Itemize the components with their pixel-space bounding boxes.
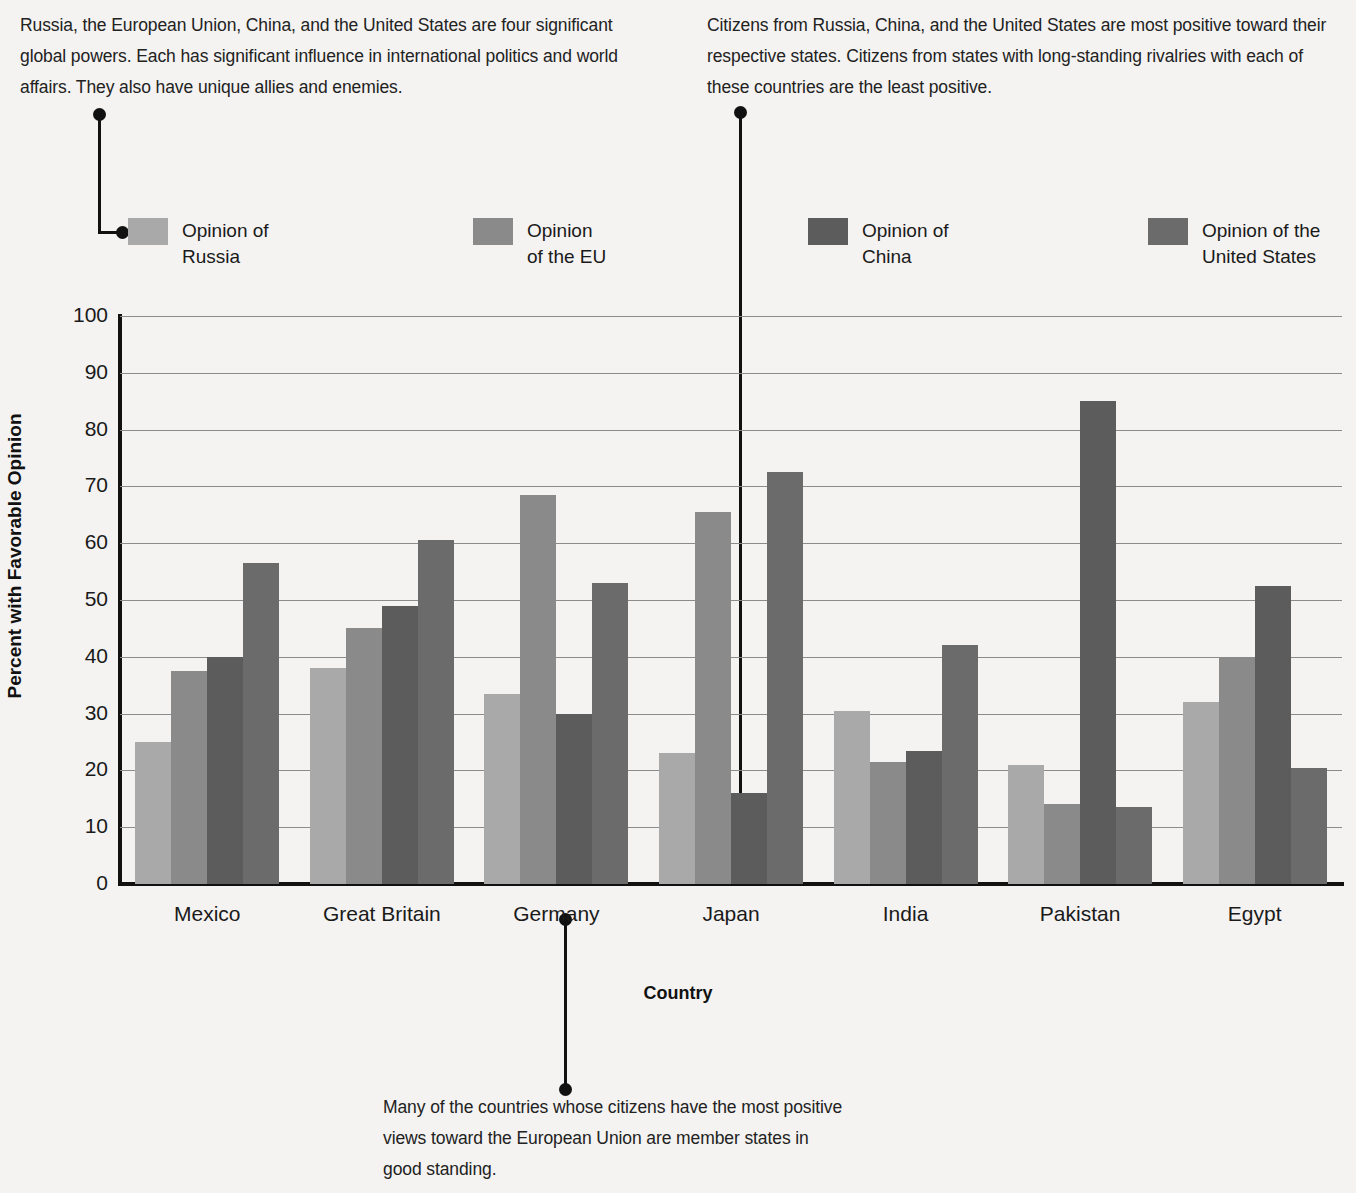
y-axis-tick-labels: 1009080706050403020100 — [60, 316, 108, 884]
legend-item-united-states[interactable]: Opinion of the United States — [1148, 218, 1320, 270]
y-axis-tick-label: 10 — [66, 814, 108, 838]
y-axis-tick-label: 100 — [66, 303, 108, 327]
leader-dot-end — [559, 1083, 572, 1096]
bar — [1116, 807, 1152, 884]
bar — [243, 563, 279, 884]
legend-item-china[interactable]: Opinion of China — [808, 218, 949, 270]
plot-area: MexicoGreat BritainGermanyJapanIndiaPaki… — [120, 316, 1342, 884]
x-axis-category-label: Mexico — [135, 902, 279, 926]
y-axis-tick-label: 90 — [66, 360, 108, 384]
bar — [767, 472, 803, 884]
y-axis-tick-label: 70 — [66, 473, 108, 497]
y-axis-tick-label: 30 — [66, 701, 108, 725]
bar — [1291, 768, 1327, 884]
x-axis-title: Country — [0, 983, 1356, 1004]
y-axis-tick-label: 40 — [66, 644, 108, 668]
legend-swatch-russia — [128, 218, 168, 245]
y-axis-tick-label: 80 — [66, 417, 108, 441]
bar — [310, 668, 346, 884]
bar — [1080, 401, 1116, 884]
bar — [870, 762, 906, 884]
bar — [171, 671, 207, 884]
chart-legend: Opinion of Russia Opinion of the EU Opin… — [0, 210, 1356, 280]
bar-group: Pakistan — [1008, 316, 1152, 884]
bar — [1044, 804, 1080, 884]
leader-segment-vertical — [564, 919, 567, 1089]
legend-label-eu: Opinion of the EU — [527, 218, 606, 270]
bar-group: India — [834, 316, 978, 884]
bar — [520, 495, 556, 884]
bar — [592, 583, 628, 884]
x-axis-category-label: Japan — [659, 902, 803, 926]
annotation-top-left: Russia, the European Union, China, and t… — [20, 10, 620, 103]
x-axis-category-label: Germany — [484, 902, 628, 926]
x-axis-category-label: India — [834, 902, 978, 926]
legend-label-russia: Opinion of Russia — [182, 218, 269, 270]
x-axis-category-label: Great Britain — [310, 902, 454, 926]
x-axis-category-label: Pakistan — [1008, 902, 1152, 926]
legend-label-united-states: Opinion of the United States — [1202, 218, 1320, 270]
bar — [382, 606, 418, 884]
bar-group: Egypt — [1183, 316, 1327, 884]
x-axis-category-label: Egypt — [1183, 902, 1327, 926]
bar — [346, 628, 382, 884]
bar — [906, 751, 942, 884]
bar — [1219, 657, 1255, 884]
bar — [695, 512, 731, 884]
bar-group: Great Britain — [310, 316, 454, 884]
y-axis-tick-label: 60 — [66, 530, 108, 554]
bar-group: Japan — [659, 316, 803, 884]
bar — [207, 657, 243, 884]
bar — [418, 540, 454, 884]
y-axis-tick-label: 50 — [66, 587, 108, 611]
legend-swatch-eu — [473, 218, 513, 245]
bar — [556, 714, 592, 884]
bar — [1183, 702, 1219, 884]
bar — [1008, 765, 1044, 884]
bar-group: Mexico — [135, 316, 279, 884]
legend-swatch-united-states — [1148, 218, 1188, 245]
bar — [135, 742, 171, 884]
legend-swatch-china — [808, 218, 848, 245]
annotation-top-right: Citizens from Russia, China, and the Uni… — [707, 10, 1347, 103]
legend-item-russia[interactable]: Opinion of Russia — [128, 218, 269, 270]
legend-label-china: Opinion of China — [862, 218, 949, 270]
legend-item-eu[interactable]: Opinion of the EU — [473, 218, 606, 270]
y-axis-tick-label: 0 — [66, 871, 108, 895]
bar — [731, 793, 767, 884]
bar — [1255, 586, 1291, 884]
bar-group: Germany — [484, 316, 628, 884]
bar — [484, 694, 520, 884]
bar — [942, 645, 978, 884]
y-axis-tick-label: 20 — [66, 757, 108, 781]
bar — [834, 711, 870, 884]
y-axis-title: Percent with Favorable Opinion — [4, 346, 26, 766]
annotation-bottom: Many of the countries whose citizens hav… — [383, 1092, 843, 1185]
bar — [659, 753, 695, 884]
